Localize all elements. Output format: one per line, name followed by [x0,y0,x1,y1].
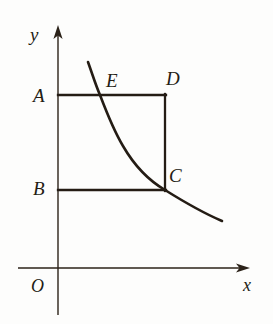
y-axis [53,25,62,315]
point-label-a: A [33,86,45,105]
point-label-d: D [166,69,180,88]
point-label-c: C [169,166,182,185]
y-axis-label: y [30,25,38,44]
x-axis-label: x [243,276,251,294]
x-axis [18,263,250,272]
point-label-b: B [33,179,45,198]
geometry-figure: A B C D E y x O [0,0,273,324]
origin-label: O [31,277,44,295]
point-label-e: E [106,71,118,90]
rectangle-abcd [58,94,166,191]
